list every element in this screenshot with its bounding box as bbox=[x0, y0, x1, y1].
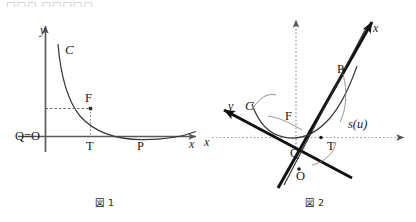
fig2-point-t-dot bbox=[319, 136, 322, 139]
fig2-label-p: P bbox=[337, 63, 344, 76]
fig2-reference-axes bbox=[212, 20, 404, 148]
figure2-drawing bbox=[0, 0, 416, 222]
fig2-label-t: T bbox=[327, 140, 335, 153]
fig2-reference-x-axis-label: x bbox=[204, 136, 209, 148]
fig2-rotated-y-axis-label: y bbox=[228, 100, 233, 112]
fig2-curve-label-c: C bbox=[245, 99, 254, 112]
fig2-arc-length-label: s(u) bbox=[348, 118, 367, 131]
fig2-label-o: O bbox=[296, 170, 305, 183]
fig2-leader-c bbox=[253, 95, 276, 108]
fig2-focus-dot bbox=[308, 130, 311, 133]
figure-pair-canvas: □□□ □□□□□, y x C F Q=O bbox=[0, 0, 416, 222]
fig2-label-f: F bbox=[285, 110, 292, 123]
fig2-label-q: Q bbox=[290, 147, 299, 160]
fig2-rotated-x-axis-label: x bbox=[373, 22, 378, 34]
fig2-caption: 図 2 bbox=[305, 198, 324, 208]
